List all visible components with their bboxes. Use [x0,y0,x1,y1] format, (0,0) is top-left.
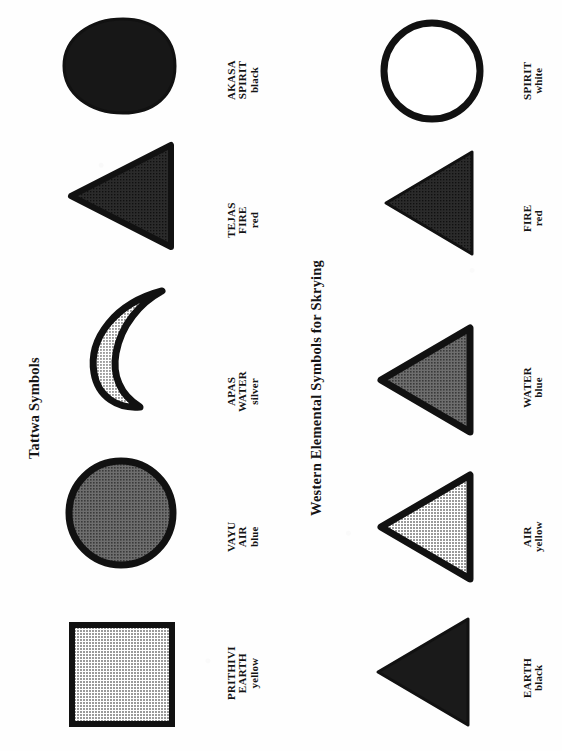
caption-color: blue [249,521,260,552]
shape-akasa-egg [57,14,183,118]
caption-apas: APAS WATER silver [226,371,260,412]
caption-element: SPIRIT [237,60,248,100]
caption-element: FIRE [237,202,248,238]
caption-tejas: TEJAS FIRE red [226,202,260,238]
shape-apas-crescent [70,283,180,413]
caption-color: silver [249,371,260,412]
shape-tejas-triangle [63,137,179,255]
shape-west-spirit-circle [378,17,486,125]
caption-color: white [533,62,544,100]
caption-prithivi: PRITHIVI EARTH yellow [226,646,260,700]
caption-west-air: AIR yellow [522,521,545,552]
shape-west-earth-triangle [372,613,478,731]
caption-color: black [533,658,544,698]
shape-vayu-circle [63,455,179,571]
caption-vayu: VAYU AIR blue [226,521,260,552]
scanned-page: Tattwa Symbols [0,0,562,751]
caption-element: EARTH [237,646,248,700]
caption-element: AIR [237,521,248,552]
shape-west-fire-triangle [380,146,480,260]
section-title-western: Western Elemental Symbols for Skrying [308,260,325,516]
caption-color: red [533,205,544,232]
shape-prithivi-square [68,621,178,729]
caption-color: yellow [249,646,260,700]
shape-west-air-triangle [374,467,480,587]
shape-west-water-triangle [374,320,480,440]
caption-west-water: WATER blue [522,367,545,408]
caption-west-fire: FIRE red [522,205,545,232]
caption-element: WATER [237,371,248,412]
caption-west-earth: EARTH black [522,658,545,698]
caption-color: red [249,202,260,238]
caption-akasa: AKASA SPIRIT black [226,60,260,100]
section-title-tattwa: Tattwa Symbols [26,357,43,459]
caption-color: black [249,60,260,100]
caption-color: blue [533,367,544,408]
caption-color: yellow [533,521,544,552]
caption-west-spirit: SPIRIT white [522,62,545,100]
